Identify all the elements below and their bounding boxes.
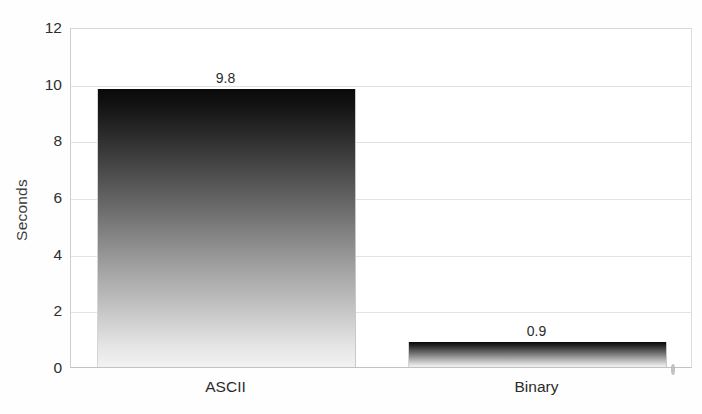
x-axis-label-binary: Binary <box>515 378 559 396</box>
y-axis-tick-label: 2 <box>16 302 62 320</box>
y-axis-tick-label: 10 <box>16 76 62 94</box>
y-axis-tick-label: 4 <box>16 246 62 264</box>
bar-ascii <box>97 89 355 367</box>
y-axis-tick-label: 6 <box>16 189 62 207</box>
y-axis-tick-label: 12 <box>16 19 62 37</box>
plot-area <box>70 28 692 368</box>
x-axis-label-ascii: ASCII <box>205 378 245 396</box>
bar-value-label-ascii: 9.8 <box>216 70 235 86</box>
bar-value-label-binary: 0.9 <box>527 323 546 339</box>
y-axis-tick-label: 8 <box>16 132 62 150</box>
scan-artifact-speck <box>671 364 675 375</box>
bar-binary <box>408 342 666 368</box>
gridline <box>71 86 691 87</box>
bar-chart: Seconds 024681012 9.80.9 ASCIIBinary <box>0 0 702 414</box>
y-axis-tick-label: 0 <box>16 359 62 377</box>
